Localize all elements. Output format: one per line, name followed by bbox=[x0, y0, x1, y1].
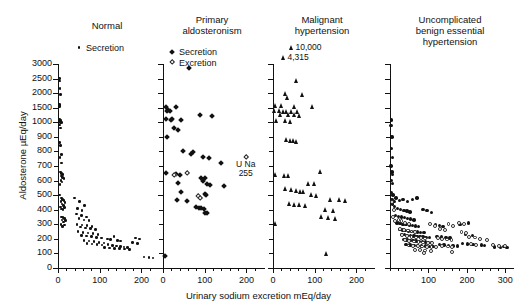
y-tick bbox=[269, 151, 273, 152]
data-point bbox=[324, 251, 328, 256]
triangle-filled-marker bbox=[286, 173, 290, 178]
data-point bbox=[272, 108, 276, 113]
data-point bbox=[294, 139, 298, 144]
data-point bbox=[428, 222, 432, 226]
data-point bbox=[131, 241, 134, 244]
dot-marker bbox=[119, 240, 122, 243]
x-minor-tick bbox=[444, 268, 445, 271]
data-point bbox=[401, 198, 404, 201]
dot-marker bbox=[103, 246, 106, 249]
dot-marker bbox=[59, 127, 62, 130]
triangle-filled-marker bbox=[278, 112, 282, 117]
x-minor-tick bbox=[421, 268, 422, 271]
triangle-filled-marker bbox=[331, 208, 335, 213]
y-tick bbox=[159, 137, 163, 138]
y-tick-label: 1500 bbox=[22, 102, 52, 112]
x-minor-tick bbox=[188, 268, 189, 271]
diamond-filled-marker bbox=[206, 155, 212, 161]
data-point bbox=[292, 202, 296, 207]
diamond-filled-marker bbox=[164, 108, 170, 114]
triangle-filled-marker bbox=[328, 197, 332, 202]
plot-panel-1: 0100200300400500600700800900100015002000… bbox=[58, 64, 156, 268]
data-point bbox=[286, 173, 290, 178]
data-point bbox=[76, 223, 79, 226]
data-point bbox=[301, 189, 305, 194]
dot-marker bbox=[85, 235, 88, 238]
data-point bbox=[412, 218, 415, 221]
data-point bbox=[185, 199, 189, 203]
y-tick bbox=[158, 64, 163, 65]
y-tick-label: 400 bbox=[22, 204, 52, 214]
y-tick bbox=[385, 79, 390, 80]
data-point bbox=[417, 225, 420, 228]
y-tick bbox=[385, 195, 390, 196]
data-point bbox=[405, 234, 409, 238]
y-tick bbox=[268, 122, 273, 123]
y-tick-label: 300 bbox=[22, 218, 52, 228]
triangle-filled-marker bbox=[294, 78, 298, 83]
data-point bbox=[285, 95, 289, 100]
triangle-filled-marker bbox=[285, 95, 289, 100]
data-point bbox=[222, 184, 226, 188]
x-minor-tick bbox=[281, 268, 282, 271]
data-point bbox=[294, 78, 298, 83]
circle-open-marker bbox=[434, 245, 438, 249]
x-tick-label: 100 bbox=[85, 275, 115, 285]
data-point bbox=[107, 243, 110, 246]
x-minor-tick bbox=[398, 268, 399, 271]
data-point bbox=[438, 227, 442, 231]
data-point bbox=[90, 235, 93, 238]
data-point bbox=[287, 201, 291, 206]
data-point bbox=[433, 224, 437, 228]
diamond-filled-marker bbox=[209, 113, 215, 119]
dot-marker bbox=[143, 256, 146, 259]
diamond-filled-marker bbox=[204, 192, 210, 198]
data-point bbox=[408, 210, 411, 213]
dot-marker bbox=[128, 248, 131, 251]
data-point bbox=[456, 244, 459, 247]
x-minor-tick bbox=[125, 268, 126, 271]
data-point bbox=[410, 235, 414, 239]
data-point bbox=[164, 171, 168, 175]
data-point bbox=[80, 214, 83, 217]
data-point bbox=[63, 177, 66, 180]
data-point bbox=[185, 171, 189, 175]
data-point bbox=[460, 230, 464, 234]
x-tick-label: 0 bbox=[258, 275, 288, 285]
legend-marker bbox=[169, 50, 175, 54]
data-point bbox=[91, 243, 94, 246]
y-tick bbox=[269, 137, 273, 138]
circle-filled-marker bbox=[391, 182, 394, 185]
x-major-tick bbox=[141, 268, 142, 273]
data-point bbox=[80, 234, 83, 237]
y-tick bbox=[54, 224, 58, 225]
dot-marker bbox=[116, 239, 119, 242]
data-point bbox=[176, 181, 180, 185]
data-point bbox=[109, 238, 112, 241]
data-point bbox=[314, 193, 318, 198]
diamond-filled-marker bbox=[221, 184, 227, 190]
data-point bbox=[62, 208, 65, 211]
x-minor-tick bbox=[475, 268, 476, 271]
y-tick bbox=[385, 64, 390, 65]
data-point bbox=[78, 217, 81, 220]
data-point bbox=[77, 230, 80, 233]
circle-open-marker bbox=[462, 222, 466, 226]
data-point bbox=[461, 242, 464, 245]
y-tick-label: 3000 bbox=[22, 58, 52, 68]
y-axis-spine bbox=[273, 64, 274, 269]
diamond-filled-marker bbox=[169, 49, 175, 55]
dot-marker bbox=[91, 243, 94, 246]
figure-root: Aldosterone µEq/day Urinary sodium excre… bbox=[0, 0, 517, 308]
y-tick bbox=[53, 195, 58, 196]
data-point bbox=[283, 186, 287, 191]
diamond-filled-marker bbox=[178, 117, 184, 123]
dot-marker bbox=[78, 46, 81, 49]
legend-marker bbox=[169, 60, 175, 64]
circle-filled-marker bbox=[428, 236, 431, 239]
circle-filled-marker bbox=[422, 231, 425, 234]
y-tick bbox=[158, 108, 163, 109]
x-minor-tick bbox=[133, 268, 134, 271]
data-point bbox=[306, 181, 310, 186]
data-point bbox=[179, 118, 183, 122]
